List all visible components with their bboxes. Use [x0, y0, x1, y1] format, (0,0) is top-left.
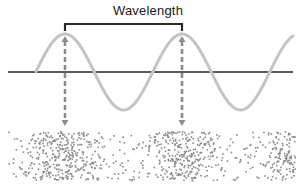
- wavelength-label: Wavelength: [88, 3, 208, 18]
- arrowhead-up-icon: [62, 36, 69, 42]
- particle-field: [8, 131, 296, 181]
- projection-arrows: [62, 36, 186, 126]
- arrowhead-up-icon: [179, 36, 186, 42]
- diagram-canvas: [0, 0, 302, 189]
- wavelength-diagram: Wavelength: [0, 0, 302, 189]
- arrowhead-down-icon: [62, 120, 69, 126]
- arrowhead-down-icon: [179, 120, 186, 126]
- wavelength-bracket: [65, 24, 182, 31]
